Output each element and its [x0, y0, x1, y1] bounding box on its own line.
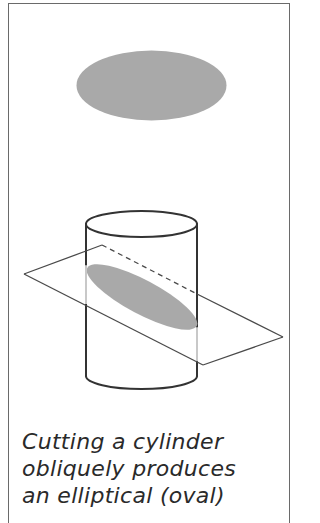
- cylinder-top-rim: [86, 211, 197, 237]
- caption-line-3: an elliptical (oval): [22, 482, 287, 509]
- section-mask-left: [60, 250, 85, 330]
- caption: Cutting a cylinder obliquely produces an…: [22, 428, 287, 509]
- caption-line-1: Cutting a cylinder: [22, 428, 287, 455]
- plane-edge-back-left-inner: [86, 245, 102, 251]
- cylinder-bottom-rim: [86, 376, 197, 389]
- section-mask-right: [198, 290, 223, 350]
- ellipse-shape: [77, 51, 227, 121]
- caption-line-2: obliquely produces: [22, 455, 287, 482]
